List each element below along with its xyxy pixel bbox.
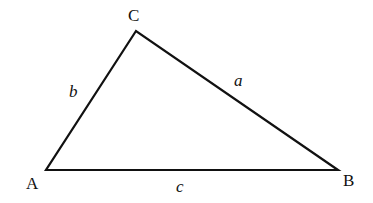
vertex-label-a: A bbox=[26, 174, 39, 193]
vertex-label-b: B bbox=[343, 171, 354, 190]
side-label-c: c bbox=[176, 177, 184, 196]
side-label-a: a bbox=[234, 71, 243, 90]
vertex-label-c: C bbox=[128, 6, 139, 25]
triangle-diagram: A B C a b c bbox=[0, 0, 373, 203]
triangle-shape bbox=[46, 31, 338, 170]
side-label-b: b bbox=[69, 82, 78, 101]
